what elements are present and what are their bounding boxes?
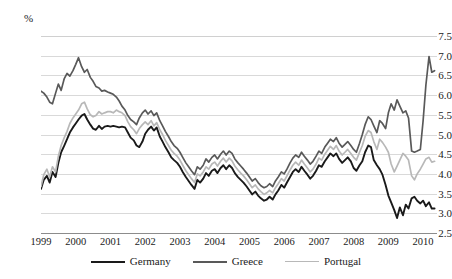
x-axis-tick-label: 2010	[400, 236, 446, 247]
series-lines-group	[41, 36, 437, 233]
series-line-portugal	[41, 102, 435, 194]
legend-label: Germany	[130, 256, 171, 267]
legend-item-greece[interactable]: Greece	[193, 256, 263, 267]
gridline	[41, 233, 437, 234]
chart-container: % 7.57.06.56.05.55.04.54.03.53.02.5 1999…	[0, 0, 452, 279]
chart-legend: GermanyGreecePortugal	[0, 256, 452, 267]
legend-item-germany[interactable]: Germany	[91, 256, 171, 267]
series-line-greece	[41, 56, 435, 187]
legend-item-portugal[interactable]: Portugal	[285, 256, 361, 267]
legend-swatch-icon	[91, 261, 125, 263]
legend-label: Portugal	[324, 256, 361, 267]
legend-label: Greece	[232, 256, 263, 267]
legend-swatch-icon	[193, 261, 227, 263]
y-axis-unit-label: %	[24, 13, 33, 24]
legend-swatch-icon	[285, 261, 319, 262]
